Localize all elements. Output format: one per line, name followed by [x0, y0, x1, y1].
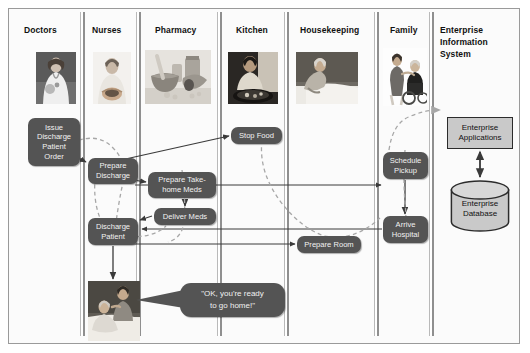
lane-title-kitchen: Kitchen	[236, 24, 268, 36]
node-issue-discharge-patient-order[interactable]: Issue Discharge Patient Order	[28, 118, 80, 166]
diagram-canvas: Doctors Nurses Pharmacy Kitchen Housekee…	[0, 0, 530, 353]
lane-title-doctors: Doctors	[24, 24, 57, 36]
lane-rule-family-eis	[429, 12, 434, 336]
housekeeper-making-bed-photo	[296, 52, 358, 104]
node-arrive-hospital[interactable]: Arrive Hospital	[383, 216, 428, 243]
lane-title-pharmacy: Pharmacy	[155, 24, 196, 36]
kitchen-cook-photo	[228, 52, 278, 104]
lane-rule-housekeeping-family	[374, 12, 379, 336]
nurse-photo	[93, 52, 131, 104]
enterprise-applications-box[interactable]: Enterprise Applications	[447, 117, 513, 149]
speech-bubble: "OK, you're ready to go home!"	[180, 283, 285, 317]
node-deliver-meds[interactable]: Deliver Meds	[154, 208, 216, 225]
lane-title-family: Family	[390, 24, 418, 36]
doctor-photo	[36, 52, 76, 104]
pharmacy-mortar-pestle-photo	[145, 50, 211, 104]
node-discharge-patient[interactable]: Discharge Patient	[88, 218, 138, 245]
patient-being-discharged-photo	[88, 281, 140, 341]
enterprise-database-label: Enterprise Database	[462, 193, 498, 219]
enterprise-database-cylinder[interactable]: Enterprise Database	[450, 180, 510, 232]
lane-title-enterprise-information-system: Enterprise Information System	[440, 24, 488, 60]
node-prepare-room[interactable]: Prepare Room	[297, 236, 361, 253]
node-prepare-take-home-meds[interactable]: Prepare Take- home Meds	[148, 172, 216, 198]
speech-bubble-tail	[136, 288, 186, 314]
lane-title-nurses: Nurses	[92, 24, 121, 36]
lane-rule-doctors-nurses	[80, 12, 85, 336]
node-schedule-pickup[interactable]: Schedule Pickup	[383, 152, 428, 179]
lane-rule-kitchen-housekeeping	[284, 12, 289, 336]
family-wheelchair-photo	[383, 48, 427, 106]
node-prepare-discharge[interactable]: Prepare Discharge	[88, 158, 138, 184]
node-stop-food[interactable]: Stop Food	[231, 127, 282, 144]
lane-title-housekeeping: Housekeeping	[300, 24, 359, 36]
